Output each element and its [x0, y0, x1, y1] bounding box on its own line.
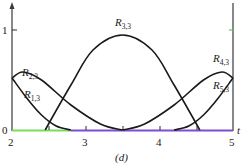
label-r53: R5,3 [212, 79, 229, 94]
curve-r1-3 [12, 78, 71, 130]
curves-group [12, 35, 233, 130]
caption: (d) [115, 151, 128, 164]
y-label-0: 0 [2, 124, 8, 136]
label-r13: R1,3 [23, 88, 40, 103]
x-label-2: 2 [8, 136, 14, 148]
label-r23: R2,3 [21, 66, 38, 81]
y-axis-arrow-icon [10, 2, 15, 9]
x-label-4: 4 [156, 136, 162, 148]
label-r33: R3,3 [114, 16, 131, 31]
curve-r3-3 [45, 35, 200, 130]
label-r43: R4,3 [212, 52, 229, 67]
x-label-5: 5 [229, 136, 235, 148]
y-label-1: 1 [2, 24, 8, 36]
chart-canvas: 0 1 2 3 4 5 t (d) R2,3 R1,3 R3,3 R4,3 R5… [0, 0, 245, 165]
x-label-3: 3 [82, 136, 88, 148]
t-axis-label: t [237, 124, 241, 136]
